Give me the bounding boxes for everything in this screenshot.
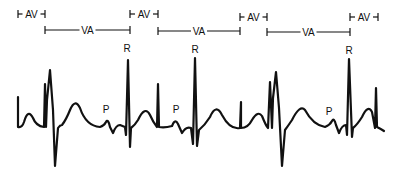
va-label: VA [302,27,315,38]
av-label: AV [138,9,151,20]
va-label: VA [193,26,206,37]
ecg-svg: AVAVAVAVVAVAVARRRPPP [0,0,402,177]
av-label: AV [247,12,260,23]
p-wave-label: P [103,104,110,115]
r-wave-label: R [123,43,130,54]
r-wave-label: R [191,44,198,55]
interval-labels: AVAVAVAVVAVAVARRRPPP [25,9,370,118]
va-label: VA [81,25,94,36]
p-wave-label: P [326,106,333,117]
p-wave-label: P [173,104,180,115]
r-wave-label: R [345,45,352,56]
av-label: AV [25,9,38,20]
av-label: AV [358,12,371,23]
ecg-diagram: AVAVAVAVVAVAVARRRPPP [0,0,402,177]
